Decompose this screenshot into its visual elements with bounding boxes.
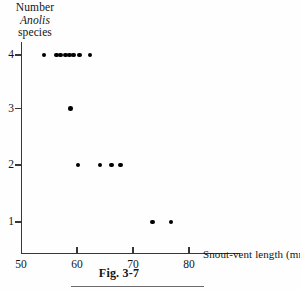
y-axis-label-line-3: species <box>2 26 68 39</box>
data-point <box>77 53 82 58</box>
data-point <box>76 163 81 168</box>
y-tick-label-2: 2 <box>0 159 14 171</box>
data-point <box>98 163 103 168</box>
y-axis-label-line-1: Number <box>2 1 68 14</box>
x-axis-label: Snout-vent length (mm) <box>203 249 300 260</box>
data-point <box>118 163 123 168</box>
scatter-plot-figure: Number Anolis species 1234 50607080 Snou… <box>0 0 300 291</box>
y-tick-2 <box>15 164 22 165</box>
y-tick-label-3: 3 <box>0 103 14 115</box>
y-axis-label-line-2-italic: Anolis <box>2 14 68 27</box>
data-point <box>68 106 73 111</box>
x-tick-70 <box>132 247 133 254</box>
data-point <box>88 53 93 58</box>
x-tick-80 <box>188 247 189 254</box>
x-tick-60 <box>76 247 77 254</box>
data-point <box>169 220 174 225</box>
y-tick-3 <box>15 108 22 109</box>
caption-rule <box>71 286 204 287</box>
y-tick-4 <box>15 54 22 55</box>
y-axis-label: Number Anolis species <box>2 1 68 39</box>
y-tick-label-4: 4 <box>0 49 14 61</box>
data-point <box>71 53 76 58</box>
y-tick-label-1: 1 <box>0 216 14 228</box>
y-tick-1 <box>15 221 22 222</box>
data-point <box>150 220 155 225</box>
x-axis-label-leader <box>192 253 203 254</box>
data-point <box>109 163 114 168</box>
figure-caption: Fig. 3-7 <box>0 267 238 279</box>
data-point <box>42 53 47 58</box>
